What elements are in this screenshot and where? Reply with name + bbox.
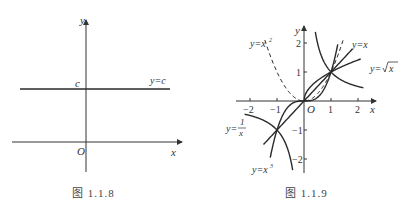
x-tick-label: −1 xyxy=(270,104,281,115)
series-label-y-x-cubed: y=x 3 xyxy=(251,163,273,175)
x-axis-label: x xyxy=(170,146,176,158)
svg-text:y=: y= xyxy=(369,63,381,74)
y-tick-label: −2 xyxy=(292,154,303,165)
figure-canvas: y x O c y=c 图 1.1.8 −2−112−2−112 y x O y… xyxy=(0,0,405,208)
curve-y-1-x-neg xyxy=(245,114,293,170)
origin-label: O xyxy=(77,145,85,157)
origin-label: O xyxy=(307,103,315,115)
figure-caption: 图 1.1.8 xyxy=(72,187,115,199)
svg-text:1: 1 xyxy=(240,117,245,127)
svg-text:y=x: y=x xyxy=(249,38,266,49)
y-axis-label: y xyxy=(294,24,300,36)
svg-text:x: x xyxy=(388,63,394,74)
series-label-y-reciprocal-x: y= 1 x xyxy=(225,117,246,138)
y-tick-label: −1 xyxy=(292,125,303,136)
svg-text:y=: y= xyxy=(225,123,237,134)
y-tick-label: 2 xyxy=(296,38,301,49)
figure-caption: 图 1.1.9 xyxy=(285,187,328,199)
x-axis-label: x xyxy=(369,103,375,115)
svg-text:3: 3 xyxy=(269,163,273,169)
c-label: c xyxy=(75,77,80,89)
svg-text:2: 2 xyxy=(269,37,272,43)
series-label-y-x: y=x xyxy=(351,39,368,50)
y-axis-label: y xyxy=(79,14,85,26)
x-tick-label: 1 xyxy=(328,104,333,115)
figure-1-1-9: −2−112−2−112 y x O y=x y= x y=x 2 y=x 3 … xyxy=(225,24,398,199)
svg-text:x: x xyxy=(238,128,243,138)
y-tick-label: 1 xyxy=(296,67,301,78)
series-label-y-x-squared: y=x 2 xyxy=(249,37,272,49)
series-label-y-c: y=c xyxy=(149,75,166,86)
x-tick-label: −2 xyxy=(243,104,254,115)
figure-1-1-8: y x O c y=c 图 1.1.8 xyxy=(12,14,182,199)
x-tick-label: 2 xyxy=(355,104,360,115)
svg-text:y=x: y=x xyxy=(251,164,268,175)
series-label-y-sqrt-x: y= x xyxy=(369,62,398,74)
